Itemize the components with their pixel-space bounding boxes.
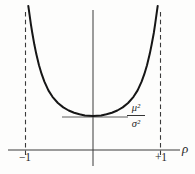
x-tick-label-plus-one: +1: [148, 151, 174, 164]
figure-canvas: −1 +1 ρ μ² σ²: [0, 0, 195, 174]
fraction-denominator: σ²: [127, 116, 145, 130]
fraction-numerator: μ²: [127, 101, 145, 116]
minimum-value-fraction: μ² σ²: [127, 101, 145, 130]
x-tick-label-minus-one: −1: [12, 151, 38, 164]
plot-svg: [0, 0, 195, 174]
x-axis-label-rho: ρ: [182, 141, 188, 157]
